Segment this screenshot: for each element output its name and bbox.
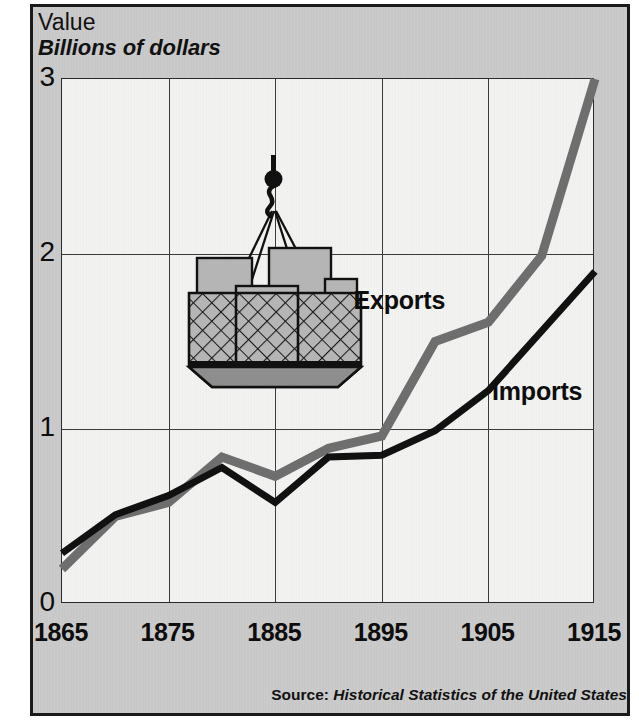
source-note: Source: Historical Statistics of the Uni…	[271, 686, 627, 704]
crane-cargo-net-illustration	[175, 155, 375, 410]
chart-axis-title: Value Billions of dollars	[38, 10, 221, 60]
axis-title-units: Billions of dollars	[38, 36, 221, 61]
axis-title-value: Value	[38, 10, 221, 36]
source-title: Historical Statistics of the United Stat…	[333, 686, 627, 703]
source-prefix: Source:	[271, 686, 329, 703]
chart-figure: Value Billions of dollars	[0, 0, 639, 724]
plot-area	[61, 78, 594, 603]
